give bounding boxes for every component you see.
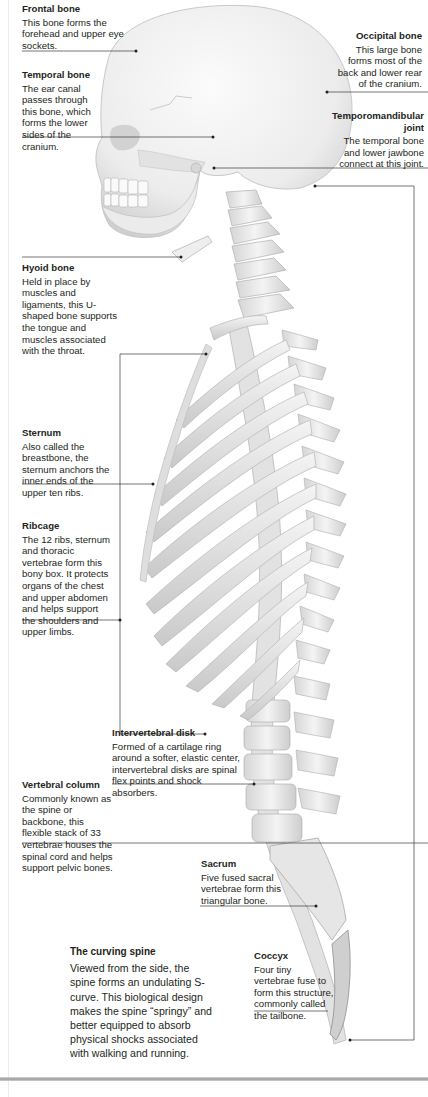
label-title: Sternum xyxy=(22,427,116,439)
label-description: Formed of a cartilage ring around a soft… xyxy=(112,741,244,799)
label-description: The ear canal passes through this bone, … xyxy=(22,83,104,153)
label-title: Hyoid bone xyxy=(22,262,118,274)
label-intervertebral-disk: Intervertebral disk Formed of a cartilag… xyxy=(112,727,244,799)
label-coccyx: Coccyx Four tiny vertebrae fuse to form … xyxy=(254,950,334,1022)
label-description: Also called the breastbone, the sternum … xyxy=(22,441,116,499)
label-description: This large bone forms most of the back a… xyxy=(330,44,422,90)
label-description: This bone forms the forehead and upper e… xyxy=(22,17,132,52)
label-description: The 12 ribs, sternum and thoracic verteb… xyxy=(22,534,114,638)
label-title: Temporal bone xyxy=(22,69,104,81)
skull xyxy=(96,5,352,237)
label-title: Frontal bone xyxy=(22,3,132,15)
label-description: Held in place by muscles and ligaments, … xyxy=(22,276,118,357)
label-title: Coccyx xyxy=(254,950,334,962)
label-sternum: Sternum Also called the breastbone, the … xyxy=(22,427,116,499)
label-hyoid-bone: Hyoid bone Held in place by muscles and … xyxy=(22,262,118,357)
label-description: The temporal bone and lower jawbone conn… xyxy=(330,135,424,170)
label-description: Five fused sacral vertebrae form this tr… xyxy=(201,872,281,907)
label-vertebral-column: Vertebral column Commonly known as the s… xyxy=(22,779,114,874)
label-description: Four tiny vertebrae fuse to form this st… xyxy=(254,964,334,1022)
label-title: Ribcage xyxy=(22,520,114,532)
page-bottom-rule xyxy=(0,1077,428,1081)
label-title: Occipital bone xyxy=(330,30,422,42)
hyoid-bone xyxy=(172,236,212,262)
label-title: Temporomandibular joint xyxy=(330,110,424,133)
label-frontal-bone: Frontal bone This bone forms the forehea… xyxy=(22,3,132,51)
label-title: Vertebral column xyxy=(22,779,114,791)
label-temporal-bone: Temporal bone The ear canal passes throu… xyxy=(22,69,104,152)
label-description: Commonly known as the spine or backbone,… xyxy=(22,793,114,874)
label-curving-spine: The curving spine Viewed from the side, … xyxy=(70,945,216,1061)
label-title: Intervertebral disk xyxy=(112,727,244,739)
cervical-vertebrae xyxy=(226,190,294,318)
label-occipital-bone: Occipital bone This large bone forms mos… xyxy=(330,30,422,90)
label-title: Sacrum xyxy=(201,858,281,870)
label-temporomandibular-joint: Temporomandibular joint The temporal bon… xyxy=(330,110,424,170)
label-title: The curving spine xyxy=(70,945,216,959)
ribcage xyxy=(140,316,316,720)
label-sacrum: Sacrum Five fused sacral vertebrae form … xyxy=(201,858,281,906)
label-ribcage: Ribcage The 12 ribs, sternum and thoraci… xyxy=(22,520,114,638)
label-description: Viewed from the side, the spine forms an… xyxy=(70,961,216,1060)
